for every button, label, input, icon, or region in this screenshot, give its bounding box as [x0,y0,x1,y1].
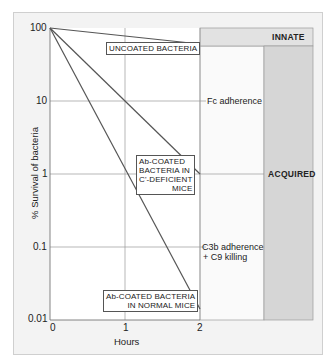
y-tick-0.01: 0.01 [28,313,47,324]
label-normal-mice: Ab-COATED BACTERIA IN NORMAL MICE [103,290,198,312]
label-text: Ab-COATED BACTERIA [106,292,195,301]
label-text: BACTERIA IN [139,166,192,175]
label-cdeficient-mice: Ab-COATED BACTERIA IN C'-DEFICIENT MICE [136,155,195,195]
y-tick-10: 10 [36,95,47,106]
x-tick-0: 0 [50,322,56,333]
annotation-c3b-adherence: C3b adherence + C9 killing [202,242,264,262]
x-axis-label: Hours [114,337,139,347]
label-uncoated-bacteria: UNCOATED BACTERIA [106,42,200,55]
x-tick-1: 1 [123,322,129,333]
region-acquired-label: ACQUIRED [268,169,316,179]
y-tick-1: 1 [42,168,48,179]
label-text: C'-DEFICIENT [139,175,192,184]
label-text: Ab-COATED [139,157,192,166]
region-innate-label: INNATE [272,32,305,42]
label-text: + C9 killing [202,252,264,262]
acquired-band [264,46,313,320]
annotation-fc-adherence: Fc adherence [207,96,262,106]
mechanism-column [200,46,264,320]
y-axis-label: % Survival of bacteria [30,123,40,223]
y-tick-0.1: 0.1 [33,241,47,252]
x-tick-2: 2 [197,322,203,333]
label-text: MICE [139,184,192,193]
label-text: IN NORMAL MICE [106,301,195,310]
label-text: C3b adherence [202,242,264,252]
y-tick-100: 100 [30,22,47,33]
